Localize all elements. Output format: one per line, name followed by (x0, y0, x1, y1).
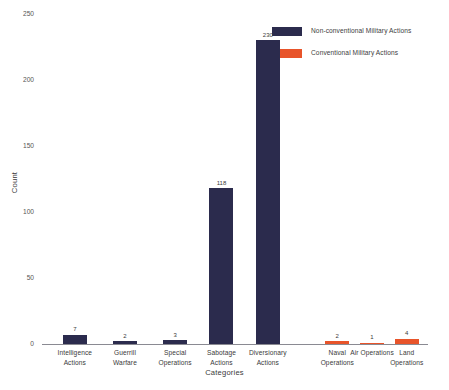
x-axis-tick-label-line: Land (376, 348, 438, 358)
bar-column[interactable]: 3 (163, 14, 187, 344)
bar-value-label: 230 (263, 32, 273, 38)
bar-column[interactable]: 2 (325, 14, 349, 344)
bar-column[interactable]: 2 (113, 14, 137, 344)
x-axis-tick-label: LandOperations (376, 348, 438, 368)
bar-value-label: 3 (173, 332, 176, 338)
plot-area: 723118230214 (42, 14, 428, 345)
y-axis-tick-label: 200 (4, 77, 34, 84)
bar-value-label: 2 (123, 333, 126, 339)
bar[interactable] (360, 343, 384, 345)
bar-value-label: 7 (73, 326, 76, 332)
x-axis-title: Categories (0, 368, 449, 377)
x-axis-tick-label-line: Operations (306, 358, 368, 368)
bar[interactable] (113, 341, 137, 344)
y-axis-tick-label: 100 (4, 209, 34, 216)
bar[interactable] (325, 341, 349, 344)
bar-value-label: 4 (405, 330, 408, 336)
x-axis-tick-label: DiversionaryActions (237, 348, 299, 368)
bar-chart: Non-conventional Military Actions Conven… (0, 0, 449, 390)
bar-value-label: 2 (336, 333, 339, 339)
bar-value-label: 118 (217, 180, 227, 186)
bar[interactable] (63, 335, 87, 344)
bar-column[interactable]: 1 (360, 14, 384, 344)
x-axis-tick-label-line: Operations (376, 358, 438, 368)
y-axis-tick-label: 0 (4, 341, 34, 348)
y-axis-tick-label: 150 (4, 143, 34, 150)
bar-column[interactable]: 230 (256, 14, 280, 344)
y-axis-title: Count (10, 153, 19, 213)
bar-column[interactable]: 4 (395, 14, 419, 344)
bar-column[interactable]: 7 (63, 14, 87, 344)
x-axis-line (42, 344, 428, 345)
y-axis-tick-label: 50 (4, 275, 34, 282)
bar-column[interactable]: 118 (209, 14, 233, 344)
bar[interactable] (395, 339, 419, 344)
bar[interactable] (209, 188, 233, 344)
y-axis-tick-label: 250 (4, 11, 34, 18)
bar[interactable] (256, 40, 280, 344)
bar-value-label: 1 (370, 334, 373, 340)
x-axis-tick-label-line: Diversionary (237, 348, 299, 358)
x-axis-tick-label-line: Actions (237, 358, 299, 368)
bar[interactable] (163, 340, 187, 344)
